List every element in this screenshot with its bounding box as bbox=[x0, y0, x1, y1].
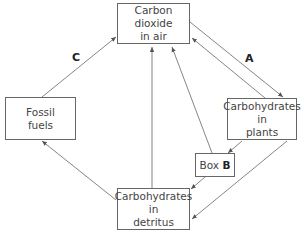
box-b-prefix: Box bbox=[200, 159, 220, 171]
node-text-line: plants bbox=[223, 126, 301, 139]
arrow-co2-to-plants bbox=[190, 22, 283, 97]
node-box-b: Box B bbox=[195, 153, 235, 177]
node-carbohydrates-in-detritus: Carbohydrates in detritus bbox=[117, 188, 190, 230]
node-text-line: Carbohydrates bbox=[223, 100, 301, 113]
node-text-line: dioxide bbox=[135, 17, 173, 30]
arrow-boxb-to-co2 bbox=[172, 47, 212, 153]
node-co2-in-air: Carbon dioxide in air bbox=[117, 3, 190, 44]
node-carbohydrates-in-plants: Carbohydrates in plants bbox=[227, 98, 297, 140]
node-text-line: fuels bbox=[26, 119, 55, 132]
arrow-detritus-to-fossil bbox=[42, 141, 116, 200]
node-text-line: in bbox=[115, 203, 193, 216]
arrow-boxb-to-detritus bbox=[191, 177, 205, 189]
arrow-fossil-to-co2 bbox=[42, 37, 116, 97]
arrow-plants-to-co2 bbox=[192, 38, 265, 98]
node-text-line: in air bbox=[135, 30, 173, 43]
node-text-line: detritus bbox=[115, 216, 193, 229]
node-text-line: Carbohydrates bbox=[115, 190, 193, 203]
node-text-line: Carbon bbox=[135, 4, 173, 17]
node-fossil-fuels: Fossil fuels bbox=[5, 97, 76, 140]
node-text-line: in bbox=[223, 113, 301, 126]
node-text-line: Fossil bbox=[26, 106, 55, 119]
label-a: A bbox=[245, 52, 254, 65]
box-b-letter: B bbox=[222, 159, 230, 171]
arrow-plants-to-boxb bbox=[228, 141, 242, 153]
label-c: C bbox=[72, 51, 80, 64]
